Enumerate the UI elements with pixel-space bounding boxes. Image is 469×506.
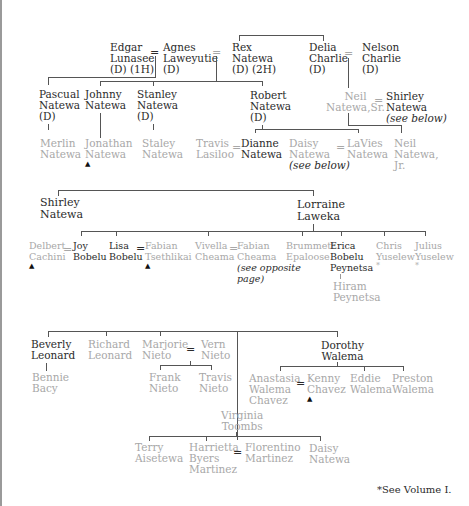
connector (348, 58, 349, 88)
connector (216, 56, 217, 81)
connector (403, 366, 404, 371)
last-name: Nieto (142, 350, 188, 361)
last-name: Yuselew (415, 251, 454, 262)
connector (100, 113, 101, 138)
annotation: (D) (2H) (232, 64, 276, 75)
person-pascual-natewa: Pascual Natewa (D) (39, 89, 80, 122)
children-line (81, 231, 426, 232)
marriage-sign: = (233, 447, 242, 458)
first-name: Delbert (29, 240, 66, 251)
connector (116, 231, 117, 236)
connector (358, 129, 359, 133)
middle-name: Bobelu (330, 251, 373, 262)
person-staley-natewa: Staley Natewa (142, 138, 183, 160)
last-name: Martinez (245, 453, 301, 464)
first-name: Chris (376, 240, 415, 251)
connector (153, 81, 154, 86)
children-line (348, 125, 401, 126)
connector (323, 35, 324, 41)
connector (160, 365, 161, 370)
asterisk-note: * (376, 262, 415, 270)
see-below-note: (see below) (386, 113, 447, 124)
person-travis-lasiloo: Travis Lasiloo (196, 138, 234, 160)
person-bennie-bacy: Bennie Bacy (32, 372, 69, 394)
connector (425, 231, 426, 236)
last-name: Natewa (347, 149, 388, 160)
last-name: Chavez (249, 395, 300, 406)
connector (153, 124, 154, 130)
person-vern-nieto: Vern Nieto (201, 339, 230, 361)
last-name: Bacy (32, 383, 69, 394)
connector (48, 77, 49, 85)
connector (48, 331, 49, 337)
person-jonathan-natewa: Jonathan Natewa ▲ (85, 138, 133, 168)
last-name: Peynetsa (333, 292, 381, 303)
first-name: Erica (330, 240, 373, 251)
person-lorraine-laweka: Lorraine Laweka (297, 199, 345, 223)
connector (160, 331, 161, 336)
person-rex-natewa: Rex Natewa (D) (2H) (232, 42, 276, 75)
triangle-marker-icon: ▲ (29, 262, 66, 270)
person-merlin-natewa: Merlin Natewa (40, 138, 81, 160)
person-virginia-toombs: Virginia Toombs (221, 410, 263, 432)
connector (46, 363, 47, 371)
person-chris-yuselew: Chris Yuselew * (376, 240, 415, 270)
person-erica-bobelu-peynetsa: Erica Bobelu Peynetsa (330, 240, 373, 273)
connector (313, 224, 314, 231)
person-hiram-peynetsa: Hiram Peynetsa (333, 281, 381, 303)
marriage-sign: = (296, 378, 305, 389)
connector (100, 81, 101, 86)
children-line (48, 77, 156, 78)
sibling-line (58, 190, 314, 191)
children-line (100, 81, 262, 82)
first-name: Joy (73, 240, 107, 251)
last-name: Yuselew (376, 251, 415, 262)
marriage-sign: = (136, 243, 145, 254)
last-name: Tsethlikai (145, 251, 192, 262)
last-name: Nieto (201, 350, 230, 361)
person-edgar-lunasee: Edgar Lunasee (D) (1H) (110, 42, 155, 75)
person-beverly-leonard: Beverly Leonard (31, 339, 75, 361)
annotation: (D) (362, 64, 401, 75)
connector (81, 231, 82, 236)
person-robert-natewa: Robert Natewa (D) (250, 90, 291, 123)
children-line (160, 365, 212, 366)
connector (106, 331, 107, 336)
footnote: *See Volume I. (377, 484, 452, 495)
see-below-note: (see below) (289, 160, 350, 171)
last-name: Lasiloo (196, 149, 234, 160)
person-delbert-cachini: Delbert Cachini ▲ (29, 240, 66, 270)
person-florentino-martinez: Florentino Martinez (245, 442, 301, 464)
last-name: Walema (392, 384, 434, 395)
last-name: Leonard (31, 350, 75, 361)
last-name: Aisetewa (135, 453, 183, 464)
last-name: Toombs (221, 421, 263, 432)
person-shirley-natewa: Shirley Natewa (40, 197, 83, 221)
last-name: Epaloose (286, 251, 335, 262)
connector (348, 113, 349, 125)
see-opposite-page-note: (see opposite (237, 262, 301, 273)
first-name: Julius (415, 240, 454, 251)
last-name: Natewa (40, 149, 81, 160)
triangle-marker-icon: ▲ (145, 262, 192, 270)
triangle-marker-icon: ▲ (85, 160, 133, 168)
person-eddie-walema: Eddie Walema (350, 373, 392, 395)
connector (255, 129, 256, 133)
annotation: (D) (250, 112, 291, 123)
person-terry-aisetewa: Terry Aisetewa (135, 442, 183, 464)
last-name: Natewa (40, 209, 83, 221)
marriage-sign: = (63, 244, 72, 255)
person-johnny-natewa: Johnny Natewa (85, 89, 126, 111)
last-name: Chavez (307, 384, 346, 395)
annotation: (D) (1H) (110, 64, 155, 75)
last-name: Martinez (189, 464, 239, 475)
last-name: Bobelu (73, 251, 107, 262)
annotation: (D) (309, 64, 348, 75)
connector (302, 231, 303, 236)
person-julius-yuselew: Julius Yuselew * (415, 240, 454, 270)
last-name: Natewa (241, 149, 282, 160)
person-marjorie-nieto: Marjorie Nieto (142, 339, 188, 361)
first-name: Brummett (286, 240, 335, 251)
person-neil-natewa-jr: Neil Natewa, Jr. (394, 138, 438, 171)
person-harrietta-byers-martinez: Harrietta Byers Martinez (189, 442, 239, 475)
